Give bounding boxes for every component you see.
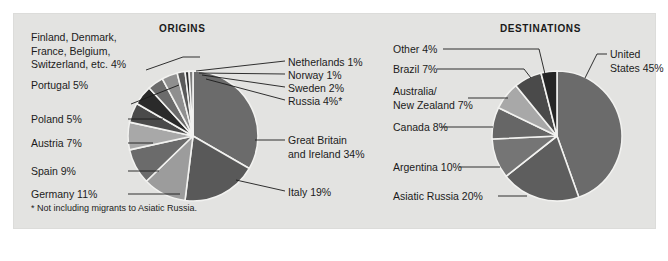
origins-label-russia: Russia 4%* <box>288 95 342 109</box>
origins-label-sweden: Sweden 2% <box>288 82 344 96</box>
origins-label-italy: Italy 19% <box>288 186 331 200</box>
origins-label-scandinavia-group: Finland, Denmark, France, Belgium, Switz… <box>31 31 126 72</box>
origins-label-germany: Germany 11% <box>31 188 97 202</box>
origins-leader-italy <box>236 180 285 191</box>
origins-label-netherlands: Netherlands 1% <box>288 56 363 70</box>
destinations-label-asiatic-russia: Asiatic Russia 20% <box>393 190 483 204</box>
origins-label-great-britain: Great Britain and Ireland 34% <box>288 134 364 161</box>
origins-label-austria: Austria 7% <box>31 137 82 151</box>
destinations-leader-other <box>443 49 545 74</box>
origins-label-portugal: Portugal 5% <box>31 79 88 93</box>
origins-leader-scandinavia <box>146 57 200 70</box>
chart-footnote: * Not including migrants to Asiatic Russ… <box>31 203 197 213</box>
destinations-label-australia-nz: Australia/ New Zealand 7% <box>393 85 473 112</box>
destinations-label-brazil: Brazil 7% <box>393 63 437 77</box>
origins-label-spain: Spain 9% <box>31 165 76 179</box>
destinations-leader-united-states <box>585 54 607 78</box>
destinations-label-other: Other 4% <box>393 43 437 57</box>
origins-label-poland: Poland 5% <box>31 113 82 127</box>
destinations-label-united-states: United States 45% <box>610 48 664 75</box>
destinations-label-canada: Canada 8% <box>393 121 448 135</box>
origins-leader-netherlands <box>196 61 285 71</box>
destinations-label-argentina: Argentina 10% <box>393 161 462 175</box>
destinations-leader-brazil <box>437 69 531 78</box>
migration-pie-chart-figure: ORIGINS DESTINATIONS Great Britain and I… <box>0 0 668 261</box>
origins-label-norway: Norway 1% <box>288 69 342 83</box>
